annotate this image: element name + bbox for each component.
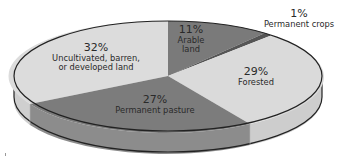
label-arable: 11% Arable land bbox=[178, 24, 205, 54]
label-forested: 29% Forested bbox=[238, 66, 274, 87]
crops-line1: Permanent crops bbox=[264, 20, 334, 29]
arable-line2: land bbox=[178, 45, 205, 54]
stray-mark bbox=[5, 153, 6, 156]
forested-line1: Forested bbox=[238, 78, 274, 87]
label-pasture: 27% Permanent pasture bbox=[115, 94, 194, 115]
uncultivated-line2: or developed land bbox=[52, 63, 140, 72]
label-permanent-crops: 1% Permanent crops bbox=[264, 8, 334, 29]
pasture-line1: Permanent pasture bbox=[115, 106, 194, 115]
label-uncultivated: 32% Uncultivated, barren, or developed l… bbox=[52, 42, 140, 72]
